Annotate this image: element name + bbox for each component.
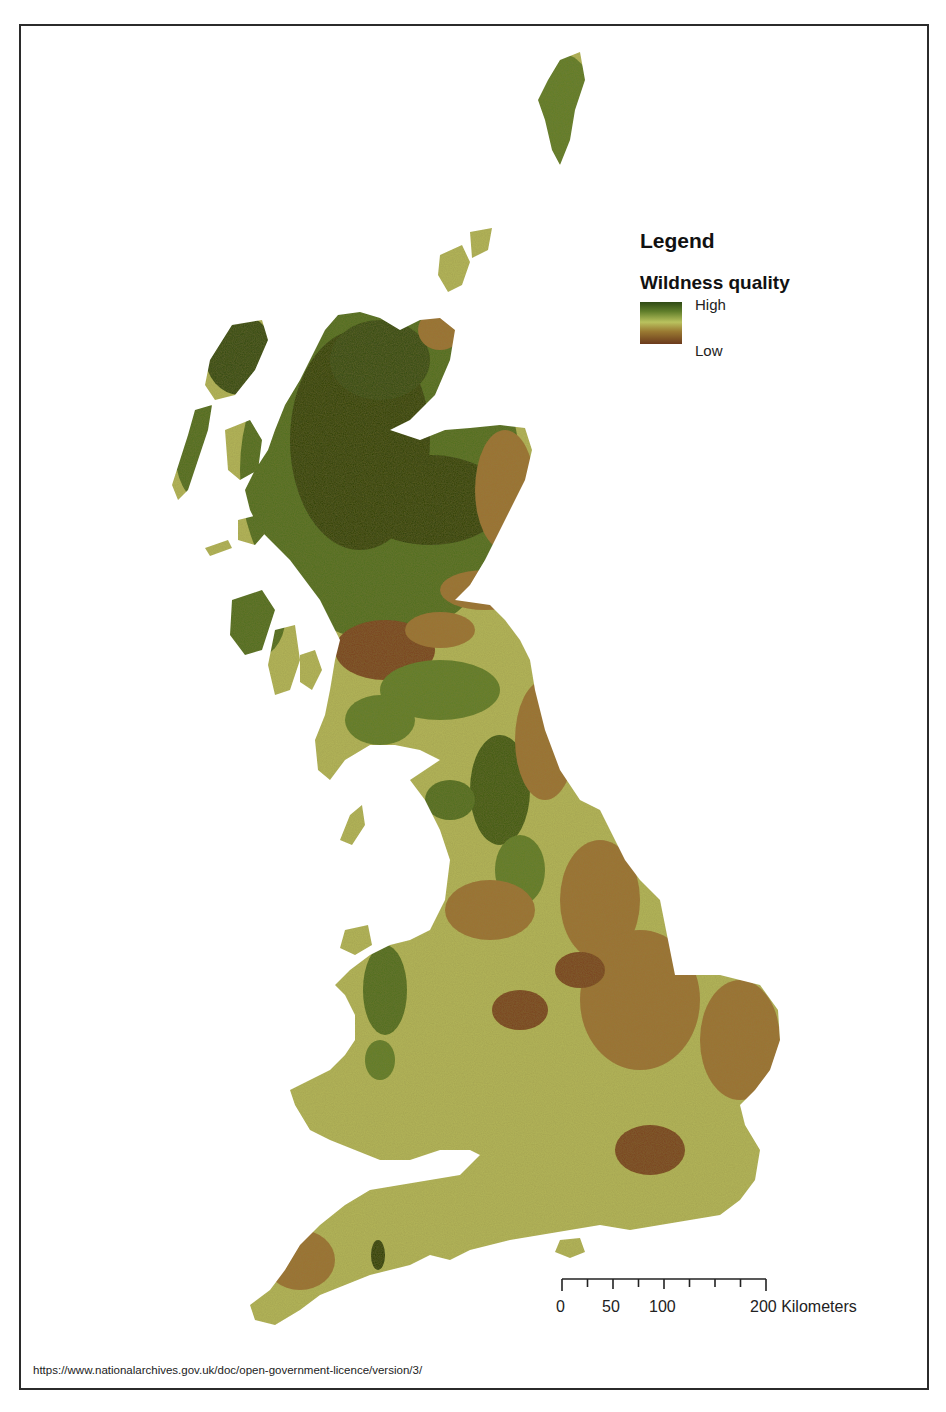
scale-label-50: 50 xyxy=(602,1298,620,1316)
legend-gradient-row: High Low xyxy=(640,296,790,360)
legend-subtitle: Wildness quality xyxy=(640,272,790,294)
scale-label-100: 100 xyxy=(649,1298,676,1316)
scale-label-200-km: 200 Kilometers xyxy=(750,1298,857,1316)
legend-gradient-swatch xyxy=(640,302,682,344)
scale-label-0: 0 xyxy=(556,1298,565,1316)
legend-title: Legend xyxy=(640,228,790,254)
scale-bar xyxy=(562,1279,766,1291)
wildness-map[interactable] xyxy=(0,0,946,1412)
legend-high-label: High xyxy=(695,296,726,313)
legend: Legend Wildness quality High Low xyxy=(640,228,790,360)
legend-low-label: Low xyxy=(695,342,723,359)
license-link[interactable]: https://www.nationalarchives.gov.uk/doc/… xyxy=(33,1364,422,1376)
landmass xyxy=(0,0,946,1412)
